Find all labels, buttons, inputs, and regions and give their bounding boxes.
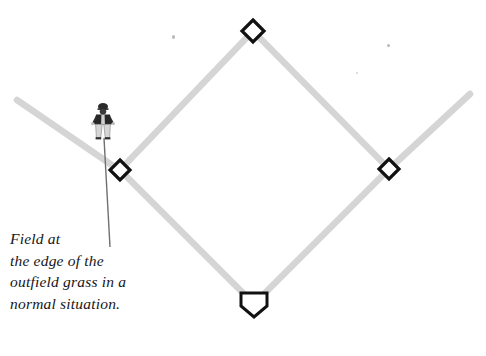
fielder-right-shoe: [105, 137, 111, 139]
home-plate: [241, 293, 267, 317]
baseline-third-to-second: [120, 31, 253, 170]
fielder-shirt-front: [101, 115, 105, 124]
caption-line-3: outfield grass in a: [10, 271, 210, 293]
fielder-figure: [91, 103, 115, 139]
fielder-left-leg: [96, 124, 103, 137]
foul-lines: [17, 94, 470, 172]
fielder-left-shoe: [96, 137, 102, 139]
fielder-left-hand: [91, 122, 94, 125]
scan-speck: [356, 72, 358, 74]
fielder-right-leg: [104, 124, 111, 137]
baseball-diamond-diagram: Field at the edge of the outfield grass …: [0, 0, 486, 356]
fielder-right-hand: [112, 122, 115, 125]
caption-line-4: normal situation.: [10, 293, 210, 315]
scan-speck: [387, 44, 390, 47]
baseline-second-to-first: [253, 31, 389, 169]
fielder-head: [100, 109, 107, 115]
caption-text: Field at the edge of the outfield grass …: [10, 228, 210, 314]
right-field-foul-line: [387, 94, 470, 171]
baseline-first-to-home: [254, 169, 389, 304]
scan-speck: [172, 35, 175, 39]
caption-line-2: the edge of the: [10, 250, 210, 272]
caption-line-1: Field at: [10, 228, 210, 250]
